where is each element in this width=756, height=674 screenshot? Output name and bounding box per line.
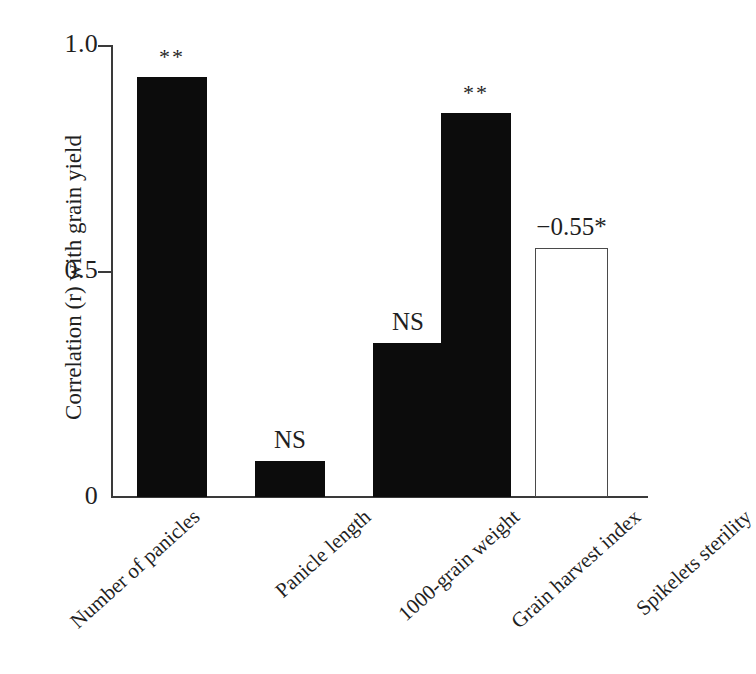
x-axis-label-1000-grain-weight: 1000-grain weight xyxy=(395,506,524,625)
plot-area: ** NS NS ** −0.55* xyxy=(111,45,648,497)
bar-group-number-of-panicles: ** xyxy=(137,45,207,497)
bar-number-of-panicles xyxy=(137,77,207,497)
y-tick-label-0: 0 xyxy=(12,483,98,509)
bar-group-1000-grain-weight: NS xyxy=(373,45,443,497)
bar-grain-harvest-index xyxy=(441,113,511,497)
bar-annotation-panicle-length: NS xyxy=(274,427,306,452)
x-axis-label-spikelets-sterility: Spikelets sterility xyxy=(633,506,756,620)
bar-spikelets-sterility xyxy=(535,248,608,497)
x-axis-label-grain-harvest-index: Grain harvest index xyxy=(508,506,645,632)
bar-group-panicle-length: NS xyxy=(255,45,325,497)
bar-annotation-grain-harvest-index: ** xyxy=(463,82,489,104)
bar-annotation-1000-grain-weight: NS xyxy=(392,309,424,334)
y-tick-mark-1 xyxy=(98,45,111,47)
x-axis-label-panicle-length: Panicle length xyxy=(272,506,375,602)
bar-1000-grain-weight xyxy=(373,343,443,497)
bar-annotation-spikelets-sterility: −0.55* xyxy=(536,214,606,239)
y-axis-title: Correlation (r) with grain yield xyxy=(62,68,85,488)
bar-group-spikelets-sterility: −0.55* xyxy=(535,45,608,497)
y-tick-label-1: 1.0 xyxy=(12,31,98,57)
y-tick-mark-0.5 xyxy=(98,271,111,273)
bar-panicle-length xyxy=(255,461,325,497)
bar-annotation-number-of-panicles: ** xyxy=(159,46,185,68)
bar-group-grain-harvest-index: ** xyxy=(441,45,511,497)
